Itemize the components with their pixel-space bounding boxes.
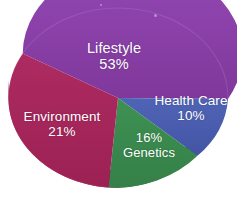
pie-top-face [8,0,237,188]
pie-chart-figure: Lifestyle 53% Environment 21% 16% Geneti… [0,0,237,205]
pie-chart-graphic [0,0,237,205]
